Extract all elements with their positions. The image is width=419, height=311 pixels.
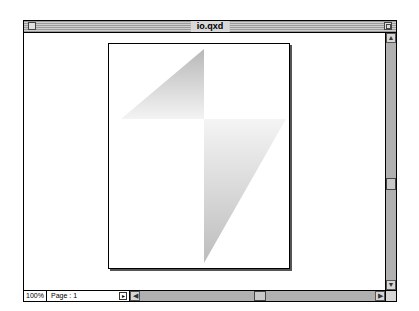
resize-grow-box[interactable] — [385, 290, 396, 301]
kite-shape[interactable] — [121, 49, 286, 263]
arrow-left-icon[interactable]: ◀ — [130, 291, 140, 301]
page-number-field: Page : 1 — [47, 291, 119, 301]
zoom-box[interactable] — [384, 22, 392, 30]
title-bar[interactable]: io.qxd — [24, 21, 396, 33]
arrow-right-icon[interactable]: ▶ — [375, 291, 385, 301]
document-canvas[interactable] — [24, 33, 385, 290]
document-window: io.qxd ▲ ▼ 100% Page : 1 ▸ — [23, 20, 397, 302]
window-title: io.qxd — [191, 21, 230, 32]
vertical-scroll-thumb[interactable] — [386, 178, 396, 190]
horizontal-scrollbar[interactable]: ◀ ▶ — [129, 291, 385, 301]
arrow-up-icon[interactable]: ▲ — [386, 33, 396, 43]
zoom-level-field[interactable]: 100% — [24, 291, 47, 301]
bottom-bar: 100% Page : 1 ▸ ◀ ▶ — [24, 290, 385, 301]
arrow-down-icon[interactable]: ▼ — [386, 280, 396, 290]
vertical-scrollbar[interactable]: ▲ ▼ — [385, 33, 396, 290]
horizontal-scroll-thumb[interactable] — [254, 291, 266, 301]
triangle-right-icon[interactable]: ▸ — [119, 292, 127, 300]
document-page[interactable] — [108, 43, 290, 269]
close-box[interactable] — [28, 22, 36, 30]
kite-shape-canvas — [109, 44, 291, 270]
